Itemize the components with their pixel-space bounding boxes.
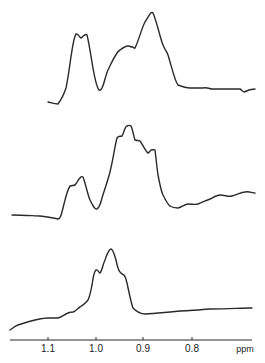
x-axis-unit-label: ppm [236, 344, 254, 354]
x-tick-label-0.9: 0.9 [136, 343, 150, 354]
middle-spectrum-trace [12, 125, 255, 219]
x-tick-label-1.0: 1.0 [89, 343, 103, 354]
nmr-spectra-figure: 1.1 1.0 0.9 0.8 ppm [0, 0, 265, 363]
bottom-spectrum-trace [10, 249, 252, 330]
x-tick-label-1.1: 1.1 [41, 343, 55, 354]
top-spectrum-trace [48, 12, 255, 104]
x-axis: 1.1 1.0 0.9 0.8 ppm [10, 337, 254, 354]
x-tick-label-0.8: 0.8 [185, 343, 199, 354]
